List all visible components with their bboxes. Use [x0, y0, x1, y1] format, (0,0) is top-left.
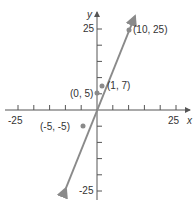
x-tick-label-neg25: -25: [8, 115, 23, 126]
point-label-10-25: (10, 25): [133, 24, 167, 35]
y-tick-label-neg25: -25: [79, 185, 94, 196]
x-tick-label-25: 25: [168, 115, 180, 126]
point-1-7: [100, 84, 105, 89]
y-tick-label-25: 25: [83, 23, 95, 34]
point-0-5: [95, 91, 100, 96]
point-10-25: [127, 28, 132, 33]
y-axis-label: y: [86, 9, 93, 20]
x-axis-label: x: [186, 115, 193, 126]
line-y-2x-5: [66, 16, 135, 188]
graph: (10, 25) (1, 7) (0, 5) (-5, -5) -25 25 2…: [0, 0, 195, 209]
point-label-neg5-neg5: (-5, -5): [40, 121, 70, 132]
point-label-0-5: (0, 5): [70, 88, 93, 99]
point-label-1-7: (1, 7): [107, 80, 130, 91]
point-neg5-neg5: [81, 124, 86, 129]
